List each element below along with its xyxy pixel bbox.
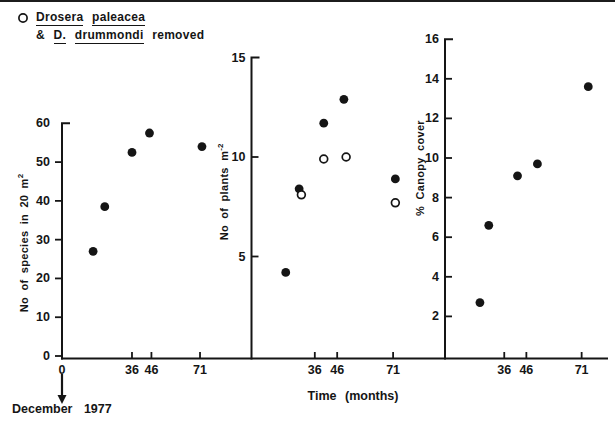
y-axis-label-text: % Canopy cover <box>414 120 426 216</box>
x-tick-label: 46 <box>322 362 352 378</box>
chart-labels-layer: 0102030405060036467151015364671246810121… <box>0 0 615 430</box>
y-axis-label-text: No of species in 20 m <box>18 178 30 312</box>
y-tick-label: 60 <box>14 115 50 131</box>
legend-word: & <box>36 28 45 42</box>
legend-word: drummondi <box>75 28 144 44</box>
y-axis-label-plants: No of plants m-2 <box>213 117 229 267</box>
open-circle-icon <box>15 10 31 26</box>
legend-word: Drosera <box>36 10 83 26</box>
legend-word: paleacea <box>92 10 145 26</box>
legend-word: D. <box>54 28 67 44</box>
legend-text: Drosera paleacea & D. drummondi removed <box>36 9 204 44</box>
december-1977-note: December 1977 <box>12 402 112 416</box>
legend: Drosera paleacea & D. drummondi removed <box>0 0 300 52</box>
x-axis-title: Time (months) <box>283 389 423 403</box>
y-axis-label-canopy: % Canopy cover <box>409 83 425 253</box>
y-tick-label: 4 <box>403 269 439 285</box>
y-tick-label: 16 <box>403 31 439 47</box>
figure: 0102030405060036467151015364671246810121… <box>0 0 615 430</box>
x-tick-label: 0 <box>47 362 77 378</box>
x-tick-label: 71 <box>567 362 597 378</box>
x-tick-label: 71 <box>378 362 408 378</box>
y-tick-label: 0 <box>14 348 50 364</box>
y-axis-label-sup: 2 <box>16 174 25 178</box>
y-axis-label-text: No of plants m <box>218 151 230 241</box>
y-tick-label: 2 <box>403 308 439 324</box>
x-tick-label: 46 <box>511 362 541 378</box>
y-axis-label-sup: -2 <box>216 144 225 151</box>
legend-line-2: & D. drummondi removed <box>36 27 204 45</box>
x-tick-label: 46 <box>136 362 166 378</box>
x-tick-label: 71 <box>185 362 215 378</box>
legend-line-1: Drosera paleacea <box>36 9 204 27</box>
legend-word: removed <box>152 28 204 42</box>
y-axis-label-species: No of species in 20 m2 <box>13 148 29 338</box>
